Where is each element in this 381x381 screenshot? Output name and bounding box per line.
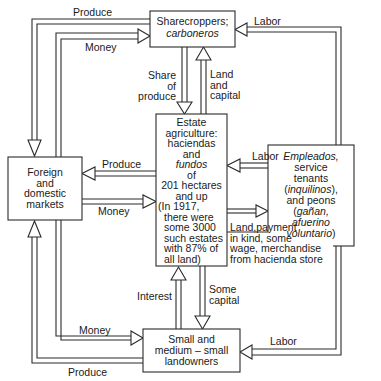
arrow-land-and-capital xyxy=(196,47,211,114)
arrow-interest xyxy=(171,267,186,329)
arrow-share-of-produce xyxy=(177,47,192,114)
arrow-land-payment-estate-to-workers xyxy=(227,205,268,217)
label-labor-top: Labor xyxy=(254,15,281,27)
label-labor-bottom: Labor xyxy=(270,335,297,347)
label-interest: Interest xyxy=(137,290,172,302)
label-produce-top: Produce xyxy=(73,6,112,18)
estate-node: Estate agriculture: haciendas and fundos… xyxy=(158,116,223,265)
label-produce-bottom: Produce xyxy=(68,366,107,378)
label-labor-mid: Labor xyxy=(252,150,279,162)
arrow-produce-landowners-to-markets xyxy=(28,221,143,363)
sharecroppers-title: Sharecroppers; xyxy=(157,15,229,27)
sharecroppers-subtitle: carboneros xyxy=(166,27,219,39)
arrow-labor-workers-to-sharecroppers xyxy=(235,23,341,145)
label-money-top: Money xyxy=(85,41,117,53)
label-money-bottom: Money xyxy=(79,324,111,336)
label-money-mid: Money xyxy=(98,205,130,217)
label-share-of-produce: produce xyxy=(138,90,176,102)
markets-line: markets xyxy=(26,198,63,210)
arrow-some-capital xyxy=(195,266,210,329)
label-land-and-capital: capital xyxy=(210,89,240,101)
label-some-capital: capital xyxy=(209,294,239,306)
label-produce-mid: Produce xyxy=(102,158,141,170)
landowners-line: landowners xyxy=(165,355,219,367)
flow-diagram: Sharecroppers; carboneros Estate agricul… xyxy=(0,0,381,381)
label-land-payment: from hacienda store xyxy=(230,253,323,265)
estate-line: all land) xyxy=(164,253,201,265)
markets-node: Foreign and domestic markets xyxy=(24,166,66,210)
sharecroppers-node: Sharecroppers; carboneros xyxy=(157,15,229,39)
